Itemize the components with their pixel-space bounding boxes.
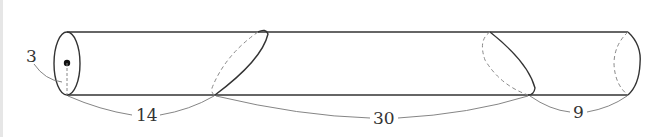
label-9: 9 xyxy=(573,102,584,122)
label-14: 14 xyxy=(136,105,158,125)
dim-30-right xyxy=(398,96,528,118)
radius-dimension-curve xyxy=(34,64,62,82)
label-30: 30 xyxy=(373,108,395,128)
cut2-solid xyxy=(490,32,535,95)
right-end-dashed xyxy=(614,32,628,95)
cylinder-diagram: 3 14 30 9 xyxy=(0,0,662,137)
cut1-solid xyxy=(215,30,268,95)
dim-30-left xyxy=(216,96,370,118)
cut2-dashed xyxy=(482,32,528,95)
dim-14-right xyxy=(160,96,214,115)
dim-9-right xyxy=(587,96,627,112)
dim-9-left xyxy=(530,96,570,112)
radius-label: 3 xyxy=(26,46,37,66)
right-end-solid xyxy=(628,32,640,95)
dim-14-left xyxy=(68,96,132,115)
